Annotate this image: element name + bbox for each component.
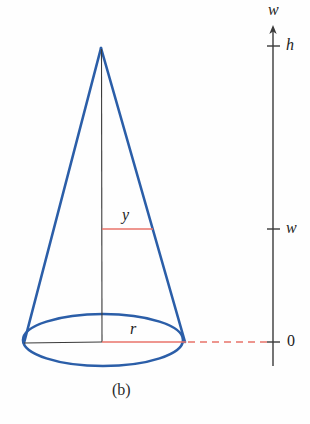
cone-central-axis-line <box>102 49 103 342</box>
tick-label-w: w <box>286 220 297 236</box>
cone-figure: w h w 0 y r (b) <box>0 0 310 424</box>
figure-vector-graphics <box>0 0 310 424</box>
cone-base-left-radius-line <box>24 342 102 343</box>
slice-radius-label-y: y <box>122 207 129 223</box>
cone-base-ellipse <box>23 314 183 366</box>
cone-right-slant-line <box>101 48 185 342</box>
base-radius-label-r: r <box>130 321 136 337</box>
w-axis-title-label: w <box>268 2 279 18</box>
tick-label-h: h <box>286 37 294 53</box>
figure-caption: (b) <box>112 382 131 398</box>
cone-left-slant-line <box>24 48 101 343</box>
tick-label-zero: 0 <box>287 333 295 349</box>
